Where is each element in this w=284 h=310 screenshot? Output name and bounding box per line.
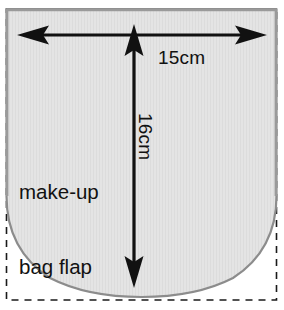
makeup-bag-flap-diagram: 15cm 16cm make-up bag flap (0, 0, 284, 310)
flap-caption-line-1: make-up (19, 179, 99, 204)
flap-caption-line-2: bag flap (19, 254, 99, 279)
height-dimension-label-wrapper: 16cm (137, 113, 161, 193)
width-dimension-label: 15cm (158, 47, 205, 69)
height-dimension-label: 16cm (134, 113, 156, 160)
flap-caption: make-up bag flap (19, 129, 99, 310)
